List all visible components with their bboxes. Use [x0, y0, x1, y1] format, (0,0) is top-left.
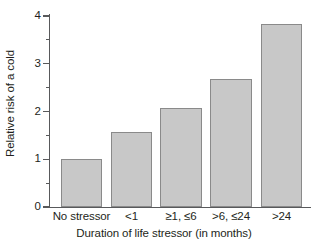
bar: [210, 79, 252, 207]
x-tick-label: >24: [236, 209, 327, 224]
bar: [111, 132, 152, 207]
y-axis-tick-labels: 4 3 2 1 0: [0, 0, 41, 246]
x-axis-tick-labels: No stressor <1 ≥1, ≤6 >6, ≤24 >24: [49, 209, 311, 225]
bar: [160, 108, 202, 207]
plot-area: [49, 16, 311, 207]
y-tick-label: 4: [7, 10, 41, 22]
bar: [261, 24, 302, 207]
x-axis-title: Duration of life stressor (in months): [0, 227, 328, 239]
bar-chart-figure: Relative risk of a cold 4 3 2 1 0 No str…: [0, 0, 328, 246]
y-tick-label: 3: [7, 58, 41, 70]
y-tick-label: 1: [7, 154, 41, 166]
y-tick-label: 2: [7, 106, 41, 118]
bar: [61, 159, 102, 207]
